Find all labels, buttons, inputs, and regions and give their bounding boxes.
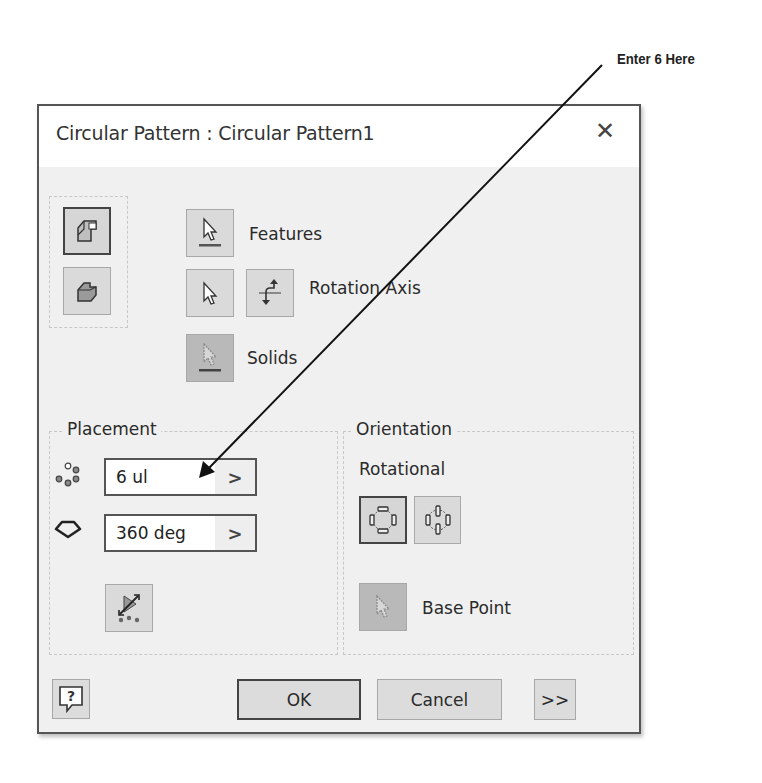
annotation-text: Enter 6 Here	[617, 50, 695, 67]
annotation-arrow	[0, 0, 762, 783]
